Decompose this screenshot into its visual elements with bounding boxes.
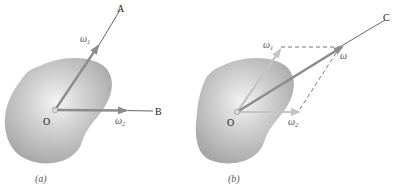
- axis-line-a: [96, 10, 120, 50]
- axis-line-b: [124, 111, 153, 112]
- omega2-label: ω2: [288, 116, 299, 128]
- panel-b-caption: (b): [228, 173, 240, 185]
- omega1-label: ω1: [263, 39, 273, 51]
- axis-label-a: A: [117, 3, 125, 14]
- origin-point: [52, 107, 58, 113]
- axis-line-c: [338, 20, 385, 48]
- panel-a-caption: (a): [35, 173, 47, 185]
- omega1-label: ω1: [80, 33, 90, 45]
- omega2-label: ω2: [115, 115, 126, 127]
- angular-velocity-diagram: A B O ω1 ω2 (a) C O ω1: [0, 0, 394, 190]
- parallelogram-dashed-right: [298, 47, 340, 112]
- origin-label: O: [43, 116, 50, 127]
- rigid-body-shape: [196, 58, 294, 163]
- resultant-omega-label: ω: [340, 50, 347, 61]
- panel-b: C O ω1 ω2 ω (b): [196, 12, 390, 185]
- origin-label: O: [227, 117, 234, 128]
- panel-a: A B O ω1 ω2 (a): [5, 3, 162, 185]
- origin-point: [234, 109, 240, 115]
- axis-label-b: B: [155, 106, 162, 117]
- axis-label-c: C: [383, 12, 390, 23]
- omega2-vector-arrow: [55, 110, 126, 111]
